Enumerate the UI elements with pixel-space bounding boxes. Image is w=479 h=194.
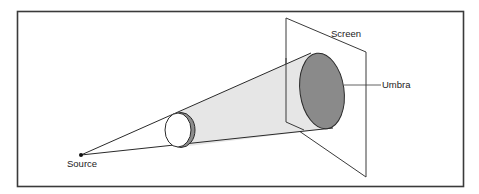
source-label: Source bbox=[67, 158, 97, 169]
screen-label: Screen bbox=[331, 28, 361, 39]
source-point bbox=[79, 153, 83, 157]
occluding-sphere bbox=[165, 113, 191, 147]
umbra-diagram: Source Screen Umbra bbox=[0, 0, 479, 194]
umbra-label: Umbra bbox=[382, 79, 411, 90]
